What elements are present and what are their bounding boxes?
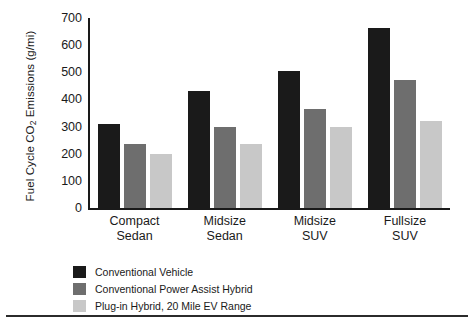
legend-item: Conventional Power Assist Hybrid xyxy=(73,281,253,296)
x-axis-category-label-line: Compact xyxy=(90,214,180,229)
bar xyxy=(304,109,326,208)
x-axis-category-label-line: Midsize xyxy=(180,214,270,229)
legend-item: Plug-in Hybrid, 20 Mile EV Range xyxy=(73,298,253,313)
x-axis-category-label-line: Fullsize xyxy=(360,214,450,229)
chart-legend: Conventional VehicleConventional Power A… xyxy=(73,264,253,315)
bar-group xyxy=(180,18,270,208)
x-axis-category-label-line: Sedan xyxy=(180,229,270,244)
legend-label: Conventional Power Assist Hybrid xyxy=(95,283,253,295)
bar-group xyxy=(270,18,360,208)
y-axis-title-post: Emissions (g/mi) xyxy=(24,31,36,121)
y-axis-title-pre: Fuel Cycle CO xyxy=(24,125,36,201)
bar xyxy=(368,28,390,209)
legend-swatch xyxy=(73,283,86,295)
bar xyxy=(330,127,352,208)
y-axis-tick-label: 600 xyxy=(42,38,82,52)
footer-divider xyxy=(6,315,468,317)
x-axis-category-label: FullsizeSUV xyxy=(360,214,450,244)
y-axis-tick-label: 0 xyxy=(42,201,82,215)
bar xyxy=(188,91,210,208)
y-axis-tick-label: 300 xyxy=(42,120,82,134)
bar xyxy=(150,154,172,208)
y-axis-tick-label: 700 xyxy=(42,11,82,25)
y-axis-tick-label: 500 xyxy=(42,65,82,79)
legend-swatch xyxy=(73,300,86,312)
plot-area: 0100200300400500600700 xyxy=(88,18,450,208)
legend-item: Conventional Vehicle xyxy=(73,264,253,279)
y-axis-tick-label: 400 xyxy=(42,92,82,106)
bar xyxy=(214,127,236,208)
x-axis-line xyxy=(88,208,450,210)
x-axis-category-label: MidsizeSUV xyxy=(270,214,360,244)
y-axis-title-subscript: 2 xyxy=(28,121,38,126)
x-axis-category-label: MidsizeSedan xyxy=(180,214,270,244)
chart-figure: Fuel Cycle CO2 Emissions (g/mi) 01002003… xyxy=(0,0,474,323)
x-axis-category-label: CompactSedan xyxy=(90,214,180,244)
bar xyxy=(124,144,146,208)
y-axis-tick-label: 200 xyxy=(42,147,82,161)
y-axis-tick-label: 100 xyxy=(42,174,82,188)
bar xyxy=(98,124,120,208)
y-axis-title: Fuel Cycle CO2 Emissions (g/mi) xyxy=(24,6,36,226)
bar-groups xyxy=(90,18,451,208)
x-axis-category-labels: CompactSedanMidsizeSedanMidsizeSUVFullsi… xyxy=(90,214,451,244)
bar-group xyxy=(360,18,450,208)
x-axis-category-label-line: Midsize xyxy=(270,214,360,229)
bar xyxy=(420,121,442,208)
x-axis-category-label-line: SUV xyxy=(270,229,360,244)
legend-label: Plug-in Hybrid, 20 Mile EV Range xyxy=(95,300,251,312)
x-axis-category-label-line: SUV xyxy=(360,229,450,244)
x-axis-category-label-line: Sedan xyxy=(90,229,180,244)
legend-swatch xyxy=(73,266,86,278)
bar xyxy=(394,80,416,208)
bar xyxy=(240,144,262,208)
legend-label: Conventional Vehicle xyxy=(95,266,193,278)
bar-group xyxy=(90,18,180,208)
bar xyxy=(278,71,300,208)
